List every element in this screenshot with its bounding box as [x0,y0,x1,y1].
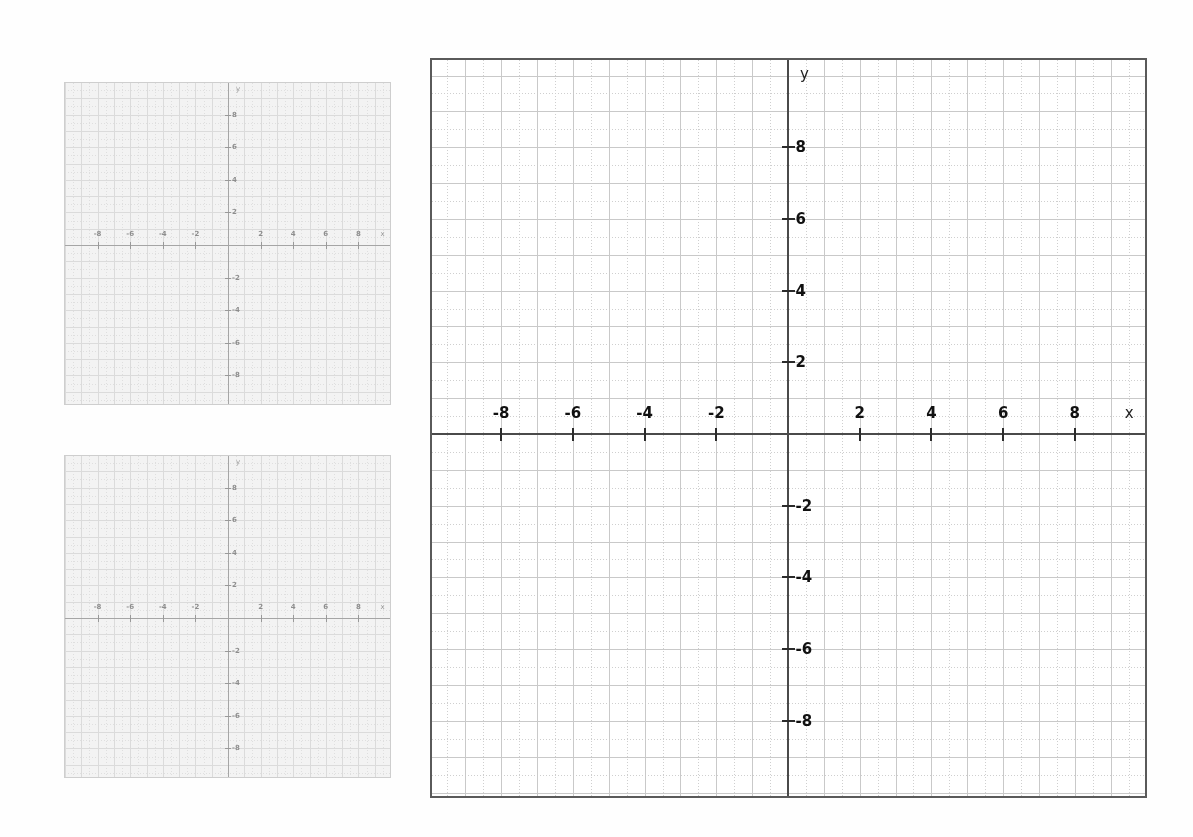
x-tick-label: 6 [998,404,1008,422]
y-tick-label: 4 [796,282,806,300]
x-tick-label: -2 [708,404,725,422]
x-tick-label: -8 [493,404,510,422]
x-axis-tick [715,428,717,441]
y-axis-tick [782,720,795,722]
x-axis-tick [98,242,99,249]
y-axis-tick [225,585,231,586]
y-tick-label: -6 [232,712,240,720]
x-axis-tick [130,615,131,622]
coordinate-plane-small-top[interactable]: -8-6-4-22468-8-6-4-22468 y x [64,82,391,405]
y-axis-tick [782,648,795,650]
y-axis-tick [782,218,795,220]
y-axis-tick [225,278,231,279]
x-tick-label: 4 [291,230,296,238]
y-axis-tick [225,683,231,684]
y-tick-label: 6 [232,143,237,151]
y-tick-label: -2 [796,497,813,515]
y-tick-label: -8 [232,744,240,752]
x-axis-tick [500,428,502,441]
x-axis-tick [1002,428,1004,441]
x-tick-label: -6 [126,603,134,611]
worksheet-page: -8-6-4-22468-8-6-4-22468 y x -8-6-4-2246… [0,0,1193,837]
x-axis-tick [261,615,262,622]
x-axis-tick [195,242,196,249]
y-tick-label: -4 [796,568,813,586]
y-tick-label: -6 [796,640,813,658]
x-tick-label: 4 [291,603,296,611]
y-tick-label: -4 [232,679,240,687]
y-tick-label: 2 [232,581,237,589]
y-axis-tick [225,147,231,148]
x-axis-tick [293,615,294,622]
coordinate-plane-small-bottom[interactable]: -8-6-4-22468-8-6-4-22468 y x [64,455,391,778]
y-tick-label: 8 [232,111,237,119]
y-axis-tick [225,520,231,521]
y-axis-tick [225,310,231,311]
x-axis-label: x [1125,404,1134,422]
x-tick-label: -6 [126,230,134,238]
y-axis-tick [225,553,231,554]
x-tick-label: 2 [854,404,864,422]
y-axis-tick [225,212,231,213]
y-axis-label: y [800,65,809,83]
x-axis-tick [195,615,196,622]
x-tick-label: 8 [1070,404,1080,422]
y-axis-tick [225,488,231,489]
y-axis-label: y [236,458,240,466]
x-axis-tick [859,428,861,441]
x-tick-label: 8 [356,603,361,611]
x-axis-tick [572,428,574,441]
y-axis-tick [225,651,231,652]
x-axis-tick [163,242,164,249]
y-tick-label: 6 [232,516,237,524]
x-axis-tick [98,615,99,622]
y-tick-label: 4 [232,549,237,557]
y-tick-label: 6 [796,210,806,228]
x-tick-label: 6 [323,603,328,611]
coordinate-plane-main[interactable]: -8-6-4-22468-8-6-4-22468 y x [430,58,1147,798]
x-axis-tick [163,615,164,622]
y-axis-line [228,83,229,404]
x-axis-tick [1074,428,1076,441]
x-tick-label: 2 [258,230,263,238]
y-tick-label: -6 [232,339,240,347]
x-tick-label: -6 [565,404,582,422]
y-axis-tick [782,361,795,363]
y-tick-label: 8 [796,138,806,156]
y-tick-label: -4 [232,306,240,314]
y-tick-label: 2 [796,353,806,371]
x-axis-label: x [381,230,385,238]
y-tick-label: -2 [232,647,240,655]
x-axis-tick [261,242,262,249]
y-axis-line [787,60,789,796]
x-axis-tick [326,615,327,622]
x-tick-label: -2 [192,603,200,611]
x-tick-label: 2 [258,603,263,611]
x-axis-tick [358,615,359,622]
x-axis-tick [930,428,932,441]
x-tick-label: 4 [926,404,936,422]
x-tick-label: -4 [159,603,167,611]
y-axis-tick [225,716,231,717]
y-axis-tick [782,505,795,507]
x-tick-label: -8 [94,230,102,238]
x-axis-tick [326,242,327,249]
y-axis-tick [225,343,231,344]
x-tick-label: -2 [192,230,200,238]
y-axis-line [228,456,229,777]
x-tick-label: -4 [636,404,653,422]
y-tick-label: 2 [232,208,237,216]
x-axis-label: x [381,603,385,611]
x-tick-label: 6 [323,230,328,238]
y-axis-tick [225,115,231,116]
x-axis-tick [293,242,294,249]
y-axis-tick [225,748,231,749]
y-axis-tick [782,576,795,578]
y-tick-label: -8 [796,712,813,730]
y-tick-label: 8 [232,484,237,492]
y-axis-label: y [236,85,240,93]
x-axis-tick [644,428,646,441]
y-axis-tick [225,375,231,376]
y-axis-tick [782,290,795,292]
y-axis-tick [225,180,231,181]
